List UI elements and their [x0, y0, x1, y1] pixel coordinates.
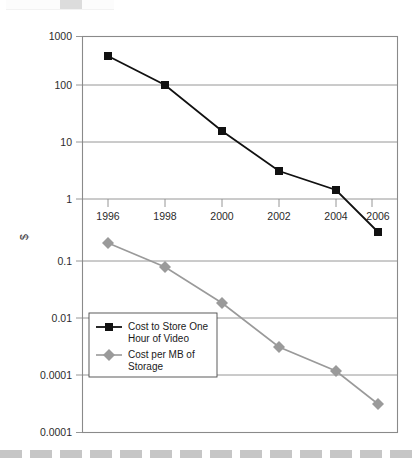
data-point-marker [275, 167, 283, 175]
y-tick-label-1: 1 [66, 193, 72, 205]
square-marker-icon [105, 323, 113, 331]
y-tickmarks [76, 37, 83, 433]
y-tick-label-0-1: 0.1 [57, 255, 72, 267]
data-point-marker [218, 127, 226, 135]
x-tick-label-2004: 2004 [324, 210, 348, 222]
y-tick-label-0-0001-upper: 0.0001 [40, 369, 72, 381]
x-tick-label-1998: 1998 [153, 210, 177, 222]
chart-legend: Cost to Store One Hour of Video Cost per… [89, 313, 217, 377]
data-point-marker [159, 261, 171, 273]
legend-entry-0-line2: Hour of Video [128, 333, 189, 344]
data-point-marker [102, 237, 114, 249]
x-tickmarks [108, 199, 372, 207]
data-point-marker [104, 52, 112, 60]
legend-entry-1-line2: Storage [128, 361, 163, 372]
data-point-marker [374, 228, 382, 236]
x-tick-label-2000: 2000 [210, 210, 234, 222]
series-cost-to-store-one-hour-of-video [104, 52, 382, 236]
cost-of-storage-line-chart: 1000 100 10 1 0.1 0.01 0.0001 0.0001 $ 1… [0, 0, 420, 464]
y-tick-label-10: 10 [60, 136, 72, 148]
x-tick-label-1996: 1996 [96, 210, 120, 222]
y-tick-label-0-01: 0.01 [52, 312, 73, 324]
x-tick-label-2002: 2002 [267, 210, 291, 222]
y-axis-title: $ [18, 234, 30, 240]
y-tick-label-0-0001-lower: 0.0001 [40, 426, 72, 438]
data-point-marker [161, 81, 169, 89]
y-tick-label-1000: 1000 [49, 30, 73, 42]
y-tick-label-100: 100 [54, 79, 72, 91]
bottom-dashed-rule [0, 450, 420, 458]
x-tick-label-2006: 2006 [366, 210, 390, 222]
legend-entry-1-line1: Cost per MB of [128, 349, 195, 360]
legend-entry-0-line1: Cost to Store One [128, 321, 208, 332]
data-point-marker [332, 186, 340, 194]
